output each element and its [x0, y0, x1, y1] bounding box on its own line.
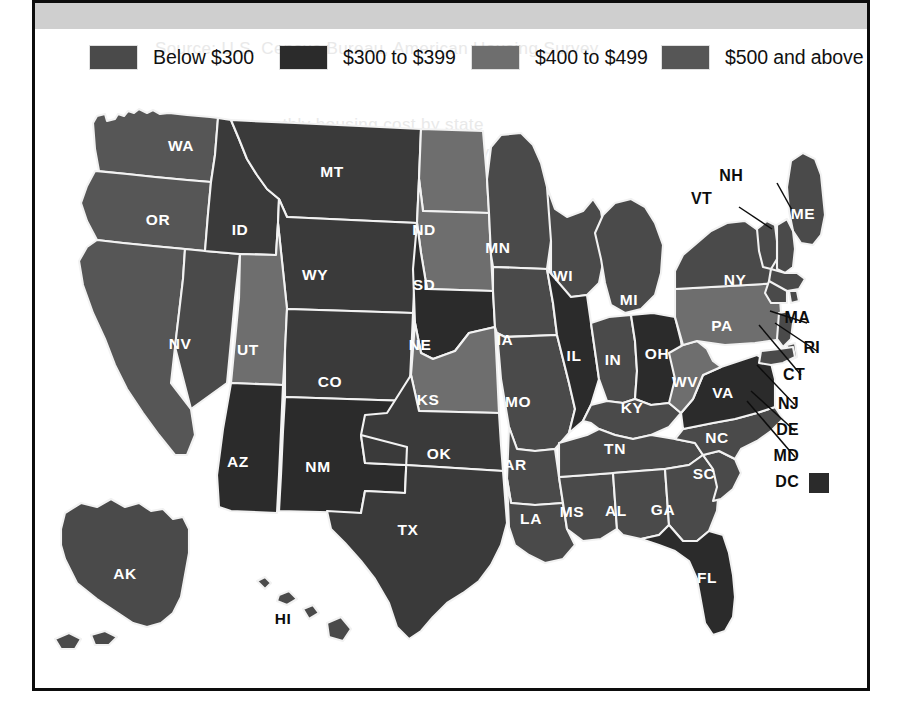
state-label-ga: GA [651, 501, 675, 518]
state-label-la: LA [520, 510, 542, 527]
state-label-ak: AK [113, 565, 137, 582]
state-label-mn: MN [485, 239, 510, 256]
state-label-ms: MS [560, 503, 584, 520]
state-label-co: CO [318, 373, 342, 390]
state-label-tx: TX [397, 521, 418, 538]
state-label-ut: UT [237, 341, 259, 358]
state-label-az: AZ [227, 453, 249, 470]
legend-item-0: Below $300 [90, 41, 254, 73]
state-label-nc: NC [705, 429, 729, 446]
state-label-pa: PA [711, 317, 733, 334]
legend-item-2: $400 to $499 [472, 41, 648, 73]
legend-item-3: $500 and above [662, 41, 863, 73]
state-shape-fl[interactable] [641, 525, 735, 635]
callout-label-vt: VT [691, 190, 712, 207]
state-label-va: VA [712, 384, 734, 401]
state-label-id: ID [232, 221, 249, 238]
dc-swatch-icon [809, 473, 829, 493]
legend-label-0: Below $300 [153, 46, 254, 69]
callout-label-md: MD [774, 447, 799, 464]
state-label-ny: NY [724, 271, 747, 288]
legend-label-1: $300 to $399 [343, 46, 456, 69]
state-shape-co[interactable] [285, 309, 413, 401]
callout-label-ri: RI [803, 339, 820, 356]
us-choropleth-svg: WAORCANVIDMTWYUTAZCONMNDSDNEKSOKTXMNIAMO… [35, 83, 873, 688]
map-legend: Below $300$300 to $399$400 to $499$500 a… [35, 35, 867, 81]
callout-label-nj: NJ [778, 395, 799, 412]
state-shape-az[interactable] [217, 383, 283, 513]
state-label-ar: AR [503, 456, 527, 473]
state-label-sc: SC [693, 465, 716, 482]
legend-swatch-icon-0 [90, 46, 137, 69]
state-label-wv: WV [672, 373, 698, 390]
state-shape-ia[interactable] [493, 267, 557, 337]
state-label-hi: HI [275, 610, 292, 627]
state-label-nd: ND [412, 221, 436, 238]
callout-label-ct: CT [783, 366, 805, 383]
callout-label-dc: DC [775, 473, 799, 490]
state-label-wa: WA [168, 137, 194, 154]
state-label-ca: CA [101, 383, 125, 400]
state-label-al: AL [605, 502, 627, 519]
state-label-fl: FL [697, 569, 717, 586]
state-label-wi: WI [553, 267, 573, 284]
state-label-or: OR [146, 211, 170, 228]
legend-label-2: $400 to $499 [535, 46, 648, 69]
state-label-ks: KS [417, 391, 440, 408]
figure-root: Source: U.S. Census Bureau, American Hou… [0, 0, 904, 719]
map-frame: Source: U.S. Census Bureau, American Hou… [32, 0, 870, 691]
state-label-ia: IA [497, 331, 514, 348]
state-label-wy: WY [302, 266, 328, 283]
state-label-sd: SD [413, 276, 436, 293]
state-label-ok: OK [427, 445, 452, 462]
state-label-ky: KY [621, 399, 644, 416]
callout-label-nh: NH [719, 167, 743, 184]
legend-swatch-icon-1 [280, 46, 327, 69]
legend-item-1: $300 to $399 [280, 41, 456, 73]
state-label-oh: OH [645, 345, 669, 362]
state-shape-hi[interactable] [257, 577, 351, 641]
legend-swatch-icon-3 [662, 46, 709, 69]
map-canvas: WAORCANVIDMTWYUTAZCONMNDSDNEKSOKTXMNIAMO… [35, 83, 873, 688]
state-label-nm: NM [305, 458, 330, 475]
legend-swatch-icon-2 [472, 46, 519, 69]
state-label-mi: MI [620, 291, 638, 308]
state-shape-nd[interactable] [419, 129, 489, 213]
callout-label-de: DE [776, 421, 799, 438]
legend-label-3: $500 and above [725, 46, 863, 69]
state-label-ne: NE [409, 336, 432, 353]
state-label-il: IL [567, 347, 582, 364]
state-label-me: ME [791, 205, 815, 222]
state-label-tn: TN [604, 440, 626, 457]
callout-label-ma: MA [785, 309, 811, 326]
state-label-in: IN [605, 351, 622, 368]
state-label-mo: MO [505, 393, 531, 410]
state-shape-ri[interactable] [789, 291, 799, 303]
state-label-mt: MT [320, 163, 344, 180]
state-shape-wa[interactable] [93, 109, 218, 182]
top-gray-band [35, 3, 867, 29]
state-label-nv: NV [169, 335, 192, 352]
